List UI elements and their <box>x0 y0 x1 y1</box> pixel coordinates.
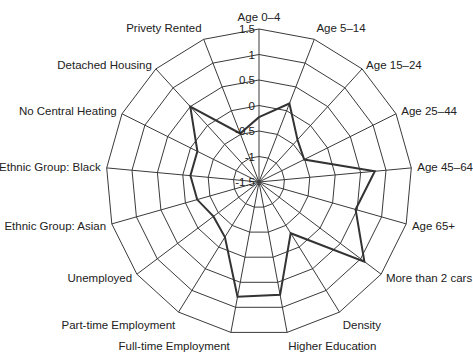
axis-label: Full-time Employment <box>119 340 231 352</box>
axis-label: Ethnic Group: Asian <box>4 220 106 232</box>
tick-label: 0 <box>249 100 255 112</box>
axis-label: Age 0–4 <box>238 11 281 23</box>
axis-label: No Central Heating <box>19 105 117 117</box>
axis-label: Unemployed <box>68 272 133 284</box>
axis-label: Age 5–14 <box>316 22 366 34</box>
axis-label: Age 15–24 <box>366 59 422 71</box>
axis-label: Age 25–44 <box>401 105 457 117</box>
axis-spoke <box>137 182 259 274</box>
radar-spokes <box>107 29 412 332</box>
axis-spoke <box>259 69 362 182</box>
axis-label: Density <box>343 319 382 331</box>
tick-label: 0.5 <box>239 74 255 86</box>
radar-chart: 1.510.50-0.5-1-1.5 Age 0–4Age 5–14Age 15… <box>0 0 473 362</box>
axis-label: Ethnic Group: Black <box>0 161 101 173</box>
tick-label: -1 <box>245 151 255 163</box>
tick-label: 1.5 <box>239 23 255 35</box>
axis-label: Part-time Employment <box>62 319 177 331</box>
axis-label: Higher Education <box>288 340 376 352</box>
axis-label: Detached Housing <box>57 59 152 71</box>
axis-label: More than 2 cars <box>386 272 473 284</box>
axis-label: Age 45–64 <box>417 161 473 173</box>
tick-label: -1.5 <box>235 176 255 188</box>
axis-label: Age 65+ <box>412 220 455 232</box>
axis-label: Privety Rented <box>126 22 201 34</box>
tick-label: -0.5 <box>235 125 255 137</box>
tick-label: 1 <box>249 49 255 61</box>
